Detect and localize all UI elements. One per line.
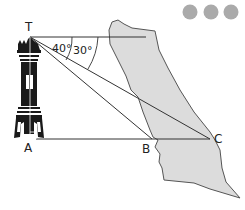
angle-label-40: 40° bbox=[52, 42, 72, 55]
dot-icon bbox=[183, 5, 198, 20]
point-label-c: C bbox=[214, 132, 222, 146]
dot-icon bbox=[224, 5, 239, 20]
diagram-canvas: 40° 30° T A B C bbox=[0, 0, 245, 210]
difficulty-dots bbox=[183, 5, 239, 20]
tower-icon bbox=[14, 37, 44, 139]
point-label-b: B bbox=[142, 142, 150, 156]
dot-icon bbox=[204, 5, 219, 20]
land-mass bbox=[109, 20, 240, 198]
angle-label-30: 30° bbox=[73, 44, 93, 57]
point-label-a: A bbox=[24, 141, 33, 155]
point-label-t: T bbox=[24, 20, 33, 34]
